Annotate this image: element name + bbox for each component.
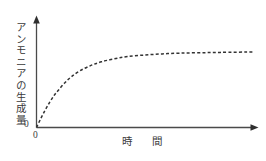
x-axis	[37, 124, 259, 131]
y-axis-label: アンモニアの生成量	[9, 28, 25, 120]
origin-label-x: 0	[33, 130, 38, 140]
x-axis-arrowhead-icon	[251, 124, 259, 131]
origin-label-y: 0	[24, 119, 29, 129]
data-series-curve	[37, 52, 254, 128]
y-axis	[33, 16, 40, 128]
ammonia-yield-chart: アンモニアの生成量 時 間 0 0	[0, 0, 266, 161]
x-axis-label: 時 間	[122, 133, 167, 148]
y-axis-arrowhead-icon	[33, 16, 40, 24]
